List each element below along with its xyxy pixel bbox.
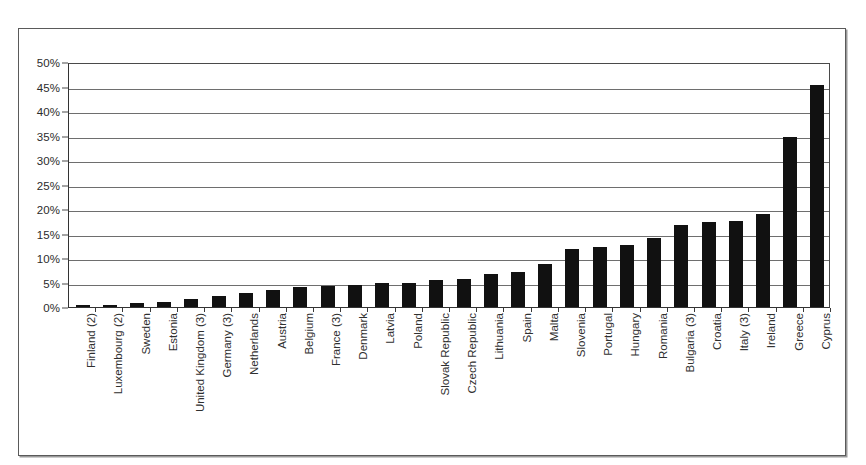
- x-axis-tickmark: [286, 308, 287, 312]
- x-axis-tickmark: [585, 308, 586, 312]
- bar: [783, 137, 797, 307]
- x-axis-category-label: Malta: [549, 313, 561, 341]
- bar: [511, 272, 525, 307]
- x-axis-category-label: Germany (3): [222, 313, 234, 378]
- x-axis-category-label: Bulgaria (3): [685, 313, 697, 372]
- x-axis-tickmark: [667, 308, 668, 312]
- x-axis-category-label: Netherlands: [249, 313, 261, 375]
- x-axis-category-label: Finland (2): [86, 313, 98, 368]
- x-axis-category-label: Hungary: [630, 313, 642, 356]
- plot-area: [68, 63, 830, 308]
- x-axis-category-label: Slovenia: [576, 313, 588, 357]
- bar: [266, 290, 280, 307]
- bar: [593, 247, 607, 307]
- x-axis-category-label: Sweden: [141, 313, 153, 355]
- x-axis-category-label: Slovak Republic: [440, 313, 452, 395]
- bar: [810, 85, 824, 307]
- bar: [375, 283, 389, 307]
- bar-series: [69, 64, 829, 307]
- x-axis-tickmark: [721, 308, 722, 312]
- x-axis-category-label: Denmark: [358, 313, 370, 360]
- bar: [565, 249, 579, 307]
- x-axis-category-label: Belgium: [304, 313, 316, 355]
- x-axis-tickmark: [531, 308, 532, 312]
- bar: [620, 245, 634, 307]
- bar: [729, 221, 743, 307]
- bar: [293, 287, 307, 307]
- x-axis-tickmark: [476, 308, 477, 312]
- x-axis-category-label: Lithuania: [494, 313, 506, 360]
- bar: [184, 299, 198, 307]
- x-axis-tickmark: [558, 308, 559, 312]
- bar: [130, 303, 144, 307]
- x-axis-tickmark: [177, 308, 178, 312]
- x-axis-category-label: Portugal: [603, 313, 615, 356]
- x-axis-tickmark: [150, 308, 151, 312]
- x-axis-category-label: Italy (3): [739, 313, 751, 351]
- x-axis-tickmark: [340, 308, 341, 312]
- x-axis-tickmark: [694, 308, 695, 312]
- bar: [429, 280, 443, 307]
- x-axis-labels: Finland (2)Luxembourg (2)SwedenEstoniaUn…: [68, 313, 830, 433]
- bar: [484, 274, 498, 307]
- x-axis-category-label: Luxembourg (2): [113, 313, 125, 394]
- x-axis-tickmark: [259, 308, 260, 312]
- bar: [76, 305, 90, 307]
- bar: [402, 283, 416, 308]
- x-axis-category-label: Austria: [277, 313, 289, 349]
- x-axis-tickmark: [449, 308, 450, 312]
- x-axis-category-label: Poland: [413, 313, 425, 349]
- x-axis-tickmark: [422, 308, 423, 312]
- bar: [674, 225, 688, 307]
- x-axis-tickmark: [830, 308, 831, 312]
- x-axis-tickmark: [395, 308, 396, 312]
- x-axis-tickmark: [122, 308, 123, 312]
- bar: [212, 296, 226, 307]
- x-axis-category-label: Latvia: [385, 313, 397, 344]
- x-axis-tickmark: [803, 308, 804, 312]
- bar: [157, 302, 171, 307]
- x-axis-category-label: Romania: [658, 313, 670, 359]
- chart-figure: 0%5%10%15%20%25%30%35%40%45%50% Finland …: [0, 0, 866, 465]
- x-axis-category-label: France (3): [331, 313, 343, 366]
- bar: [702, 222, 716, 307]
- x-axis-category-label: Estonia: [168, 313, 180, 351]
- x-axis-tickmark: [503, 308, 504, 312]
- x-axis-tickmark: [748, 308, 749, 312]
- x-axis-tickmark: [204, 308, 205, 312]
- bar: [239, 293, 253, 307]
- x-axis-category-label: United Kingdom (3): [195, 313, 207, 412]
- x-axis-tickmark: [612, 308, 613, 312]
- x-axis-tickmark: [95, 308, 96, 312]
- x-axis-tickmark: [313, 308, 314, 312]
- x-axis-category-label: Spain: [522, 313, 534, 342]
- bar: [457, 279, 471, 307]
- bar: [756, 214, 770, 307]
- x-axis-category-label: Greece: [794, 313, 806, 351]
- bar: [348, 285, 362, 307]
- bar: [647, 238, 661, 307]
- x-axis-category-label: Croatia: [712, 313, 724, 350]
- x-axis-category-label: Cyprus: [821, 313, 833, 349]
- x-axis-tickmark: [776, 308, 777, 312]
- x-axis-tickmark: [640, 308, 641, 312]
- x-axis-category-label: Czech Republic: [467, 313, 479, 394]
- bar: [321, 286, 335, 307]
- x-axis-tickmark: [367, 308, 368, 312]
- x-axis-category-label: Ireland: [766, 313, 778, 348]
- bar: [538, 264, 552, 307]
- x-axis-tickmark: [231, 308, 232, 312]
- bar: [103, 305, 117, 307]
